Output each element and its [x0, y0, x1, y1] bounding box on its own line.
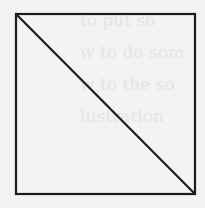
diagonal-line [16, 14, 195, 194]
square-diagonal-figure [0, 0, 205, 208]
